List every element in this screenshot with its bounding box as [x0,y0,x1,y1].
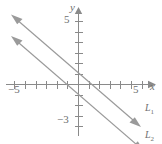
y-axis-label: y [70,2,75,13]
line-L2-label: L2 [145,130,154,143]
line-L1 [11,15,141,128]
coordinate-plane-figure: y x 5 −3 5 −5 L1 L2 [0,0,162,144]
line-L1-label-subscript: 1 [151,108,155,116]
line-L1-label: L1 [145,103,154,116]
line-L2 [11,36,144,144]
line-L2-label-subscript: 2 [151,135,155,143]
y-tick-label-5: 5 [64,14,70,25]
y-axis-arrow-icon [75,7,82,14]
graph-canvas [0,0,162,144]
x-tick-label-5: 5 [133,84,139,95]
y-tick-label-negative-3: −3 [57,114,69,125]
x-axis-label: x [150,81,155,92]
x-tick-label-negative-5: −5 [8,84,20,95]
